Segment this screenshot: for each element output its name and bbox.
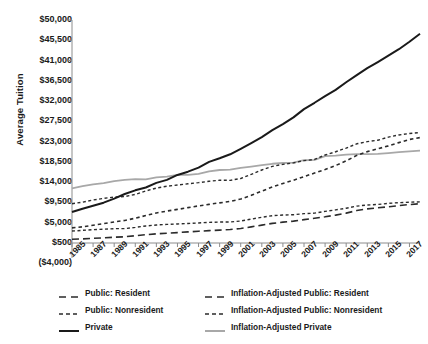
legend-label: Public: Resident [85,288,150,298]
series-line [72,34,420,212]
legend-item[interactable]: Inflation-Adjusted Private [204,322,332,332]
axis-lines [72,20,420,258]
legend-label: Inflation-Adjusted Private [231,322,332,332]
legend-item[interactable]: Public: Nonresident [58,305,163,315]
series-line [72,151,420,189]
legend-label: Inflation-Adjusted Public: Resident [231,288,369,298]
legend-item[interactable]: Inflation-Adjusted Public: Resident [204,288,369,298]
legend-row: Public: ResidentInflation-Adjusted Publi… [0,288,428,305]
legend-row: Public: NonresidentInflation-Adjusted Pu… [0,305,428,322]
legend-label: Inflation-Adjusted Public: Nonresident [231,305,382,315]
legend-label: Public: Nonresident [85,305,163,315]
legend-swatch-icon [204,305,226,315]
series-line [72,138,420,228]
legend-swatch-icon [58,288,80,298]
y-tick-marks [68,20,72,263]
legend-swatch-icon [58,305,80,315]
legend-swatch-icon [204,322,226,332]
legend-swatch-icon [204,288,226,298]
legend-item[interactable]: Inflation-Adjusted Public: Nonresident [204,305,382,315]
legend-label: Private [85,322,113,332]
series-line [72,202,420,231]
tuition-trends-chart: Average Tuition ($4,000)$500$5,000$9,500… [0,0,428,344]
series-line [72,204,420,240]
legend-swatch-icon [58,322,80,332]
x-axis-tick-labels: 1985198719891991199319951997199920012003… [0,246,428,290]
chart-legend: Public: ResidentInflation-Adjusted Publi… [0,288,428,344]
legend-row: PrivateInflation-Adjusted Private [0,322,428,339]
legend-item[interactable]: Private [58,322,113,332]
legend-item[interactable]: Public: Resident [58,288,150,298]
